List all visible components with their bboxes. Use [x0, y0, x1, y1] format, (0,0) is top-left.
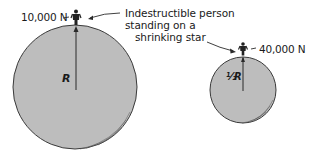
- caption: Indestructible person standing on a shri…: [125, 7, 235, 43]
- caption-arrow-left-head: [88, 16, 93, 21]
- small-star: ½ R: [210, 57, 276, 124]
- caption-arrow-right: [207, 42, 233, 51]
- small-radius-label: R: [234, 71, 242, 82]
- caption-arrow-left: [90, 13, 120, 18]
- caption-arrow-right-head: [230, 49, 236, 54]
- caption-line-3: shrinking star: [135, 31, 206, 43]
- person-icon-large: [71, 10, 81, 26]
- shrinking-star-diagram: R 10,000 N Indestructible person standin…: [0, 0, 315, 160]
- large-star: R: [13, 25, 137, 149]
- large-radius-label: R: [62, 72, 70, 85]
- person-icon-small: [239, 42, 248, 55]
- small-weight-label: 40,000 N: [259, 43, 305, 55]
- caption-line-2: standing on a: [125, 19, 195, 31]
- caption-line-1: Indestructible person: [125, 7, 235, 19]
- large-star-body: [13, 25, 137, 149]
- small-weight-leader: [251, 48, 256, 49]
- large-weight-label: 10,000 N: [21, 11, 67, 23]
